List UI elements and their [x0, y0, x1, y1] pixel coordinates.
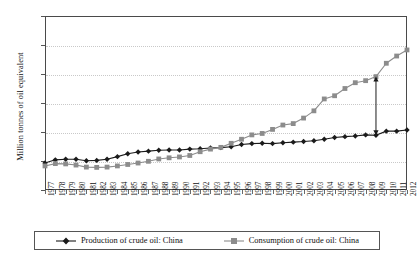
x-tick-1979 — [66, 190, 67, 194]
data-point-production-1989 — [166, 147, 171, 152]
data-point-production-1982 — [94, 158, 99, 163]
data-point-consumption-2005 — [332, 93, 337, 98]
data-point-production-2001 — [291, 139, 296, 144]
x-tick-1982 — [97, 190, 98, 194]
data-point-consumption-2002 — [301, 116, 306, 121]
x-tick-2007 — [355, 190, 356, 194]
x-tick-2006 — [345, 190, 346, 194]
x-tick-2010 — [386, 190, 387, 194]
x-tick-1998 — [262, 190, 263, 194]
data-point-production-1999 — [270, 141, 275, 146]
legend-item-production[interactable]: Production of crude oil: China — [55, 236, 183, 246]
data-point-production-2000 — [280, 140, 285, 145]
data-point-consumption-1990 — [177, 155, 182, 160]
data-point-production-2007 — [353, 133, 358, 138]
data-point-consumption-2003 — [312, 108, 317, 113]
data-point-consumption-1994 — [218, 145, 223, 150]
data-point-consumption-2006 — [343, 86, 348, 91]
x-tick-1977 — [45, 190, 46, 194]
data-point-consumption-1987 — [146, 159, 151, 164]
x-tick-1999 — [273, 190, 274, 194]
data-point-production-2003 — [311, 138, 316, 143]
data-point-consumption-1991 — [187, 153, 192, 158]
data-point-consumption-1977 — [43, 164, 48, 169]
production-consumption-gap-arrow — [373, 77, 378, 136]
series-line-production — [45, 130, 407, 163]
data-point-consumption-2012 — [405, 48, 410, 53]
data-point-consumption-1986 — [136, 161, 141, 166]
data-point-consumption-2007 — [353, 80, 358, 85]
data-point-production-2002 — [301, 139, 306, 144]
x-tick-1994 — [221, 190, 222, 194]
x-tick-1985 — [128, 190, 129, 194]
x-tick-1993 — [210, 190, 211, 194]
data-point-production-1981 — [84, 158, 89, 163]
data-point-consumption-1978 — [53, 161, 58, 166]
legend-label-production: Production of crude oil: China — [81, 236, 183, 245]
x-tick-1980 — [76, 190, 77, 194]
x-tick-1997 — [252, 190, 253, 194]
data-point-production-2008 — [363, 132, 368, 137]
x-tick-1995 — [231, 190, 232, 194]
x-tick-1981 — [86, 190, 87, 194]
data-point-consumption-1979 — [63, 162, 68, 167]
x-tick-1992 — [200, 190, 201, 194]
square-marker-icon — [223, 236, 245, 246]
data-point-production-1988 — [156, 148, 161, 153]
data-point-production-1987 — [146, 148, 151, 153]
data-point-consumption-1982 — [94, 165, 99, 170]
x-tick-2002 — [304, 190, 305, 194]
data-point-production-1986 — [135, 149, 140, 154]
x-tick-2003 — [314, 190, 315, 194]
legend-label-consumption: Consumption of crude oil: China — [249, 236, 359, 245]
x-tick-2012 — [407, 190, 408, 194]
data-point-consumption-1980 — [74, 163, 79, 168]
data-point-consumption-1985 — [125, 162, 130, 167]
data-point-consumption-1993 — [208, 147, 213, 152]
data-point-consumption-2000 — [280, 123, 285, 128]
series-layer — [45, 16, 407, 190]
data-point-production-2004 — [322, 137, 327, 142]
x-tick-2009 — [376, 190, 377, 194]
data-point-production-1996 — [239, 142, 244, 147]
x-tick-2001 — [293, 190, 294, 194]
x-tick-1990 — [179, 190, 180, 194]
data-point-production-1984 — [115, 154, 120, 159]
data-point-consumption-2011 — [394, 54, 399, 59]
x-tick-2000 — [283, 190, 284, 194]
data-point-production-2005 — [332, 135, 337, 140]
data-point-production-1979 — [63, 157, 68, 162]
x-tick-1989 — [169, 190, 170, 194]
x-tick-1988 — [159, 190, 160, 194]
data-point-consumption-1989 — [167, 155, 172, 160]
x-tick-1984 — [117, 190, 118, 194]
data-point-consumption-1995 — [229, 141, 234, 146]
data-point-consumption-1997 — [249, 133, 254, 138]
data-point-production-1980 — [73, 157, 78, 162]
data-point-consumption-1999 — [270, 127, 275, 132]
data-point-consumption-2010 — [384, 61, 389, 66]
data-point-consumption-1992 — [198, 149, 203, 154]
series-line-consumption — [45, 50, 407, 167]
diamond-marker-icon — [55, 236, 77, 246]
data-point-production-1998 — [260, 141, 265, 146]
x-tick-2011 — [397, 190, 398, 194]
legend-item-consumption[interactable]: Consumption of crude oil: China — [223, 236, 359, 246]
x-tick-2005 — [335, 190, 336, 194]
data-point-consumption-2008 — [363, 78, 368, 83]
data-point-production-2006 — [342, 134, 347, 139]
data-point-consumption-1981 — [84, 165, 89, 170]
data-point-production-2010 — [384, 128, 389, 133]
data-point-consumption-1998 — [260, 131, 265, 136]
data-point-consumption-1996 — [239, 137, 244, 142]
data-point-production-1990 — [177, 147, 182, 152]
x-tick-1991 — [190, 190, 191, 194]
x-tick-1983 — [107, 190, 108, 194]
data-point-consumption-1988 — [156, 157, 161, 162]
x-tick-1987 — [148, 190, 149, 194]
data-point-consumption-1984 — [115, 164, 120, 169]
x-tick-1986 — [138, 190, 139, 194]
x-tick-1996 — [242, 190, 243, 194]
data-point-consumption-1983 — [105, 165, 110, 170]
